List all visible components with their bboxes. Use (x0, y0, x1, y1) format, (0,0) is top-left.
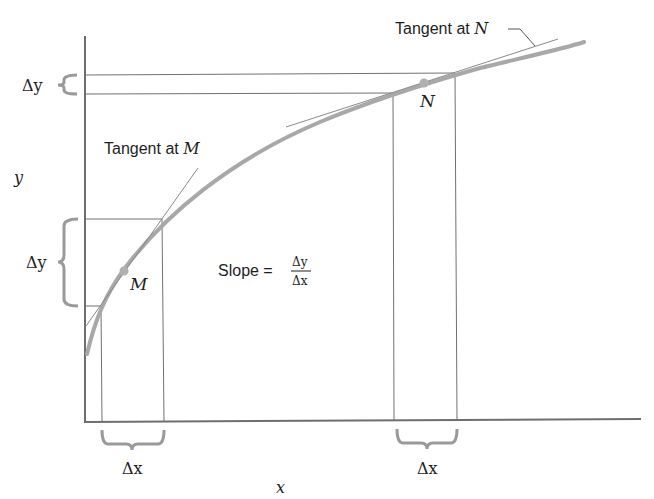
brace-delta-x-n (397, 429, 457, 449)
brace-delta-y-top (58, 75, 77, 94)
tangent-n-leader (508, 29, 535, 46)
slope-formula-text: Slope = (218, 262, 273, 279)
brace-delta-x-m (102, 430, 164, 450)
delta-y-top-label: Δy (22, 76, 43, 95)
slope-numerator: Δy (292, 255, 308, 269)
slope-diagram: Δy Δy y x Δx Δx Tangent at M Tangent at … (0, 0, 654, 499)
x-axis-label: x (276, 478, 285, 497)
guide-m-left-vertical (101, 306, 102, 422)
function-curve (87, 42, 584, 354)
delta-y-m-label: Δy (26, 253, 47, 272)
guide-n-bottom-horizontal (85, 93, 393, 94)
guide-n-top-horizontal (85, 73, 455, 75)
guide-m-right-vertical (162, 219, 164, 422)
point-n (420, 79, 429, 88)
x-axis (85, 419, 641, 422)
y-axis-label: y (13, 168, 24, 187)
brace-delta-y-m (58, 219, 78, 306)
guide-n-right-vertical (455, 73, 457, 420)
point-n-label: N (419, 91, 436, 111)
point-m (120, 267, 129, 276)
delta-x-m-label: Δx (122, 459, 143, 478)
tangent-n-label: Tangent at N (395, 19, 489, 38)
delta-x-n-label: Δx (417, 459, 438, 478)
slope-denominator: Δx (292, 274, 308, 288)
point-m-label: M (129, 274, 148, 294)
tangent-line-m (86, 168, 198, 326)
tangent-m-label: Tangent at M (104, 139, 200, 158)
guide-n-left-vertical (393, 93, 394, 421)
